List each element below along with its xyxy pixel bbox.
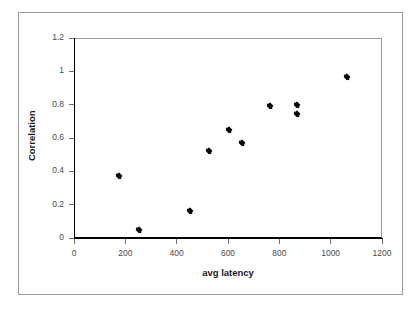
y-axis-tick xyxy=(69,38,74,39)
y-axis-line xyxy=(74,38,75,239)
x-axis-tick xyxy=(330,239,331,244)
x-axis-tick-label: 1200 xyxy=(362,249,402,258)
x-axis-tick xyxy=(125,239,126,244)
y-axis-tick xyxy=(69,171,74,172)
x-axis-line xyxy=(74,238,383,239)
x-axis-tick-label: 0 xyxy=(54,249,94,258)
x-axis-tick-label: 1000 xyxy=(311,249,351,258)
x-axis-tick xyxy=(228,239,229,244)
y-axis-tick xyxy=(69,104,74,105)
y-axis-tick xyxy=(69,204,74,205)
y-axis-tick-label: 0 xyxy=(24,233,64,242)
y-axis-tick-label: 1.2 xyxy=(24,33,64,42)
x-axis-tick-label: 400 xyxy=(157,249,197,258)
y-axis-tick-label: 1 xyxy=(24,66,64,75)
plot-area xyxy=(74,38,382,238)
x-axis-tick-label: 800 xyxy=(259,249,299,258)
x-axis-tick-label: 200 xyxy=(105,249,145,258)
x-axis-tick xyxy=(279,239,280,244)
y-axis-tick xyxy=(69,71,74,72)
y-axis-tick xyxy=(69,138,74,139)
x-axis-title: avg latency xyxy=(74,268,382,278)
x-axis-tick xyxy=(382,239,383,244)
y-axis-title: Correlation xyxy=(27,76,37,196)
x-axis-tick xyxy=(74,239,75,244)
x-axis-tick xyxy=(176,239,177,244)
y-axis-tick-label: 0.2 xyxy=(24,200,64,209)
x-axis-tick-label: 600 xyxy=(208,249,248,258)
chart-figure: 00.20.40.60.811.2020040060080010001200 a… xyxy=(0,0,420,316)
